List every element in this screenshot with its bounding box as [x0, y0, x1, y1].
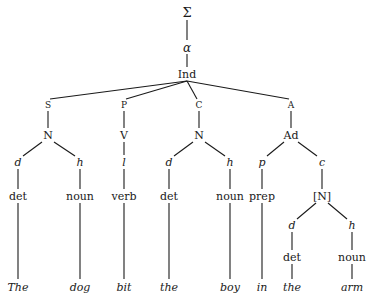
tree-node-p: P — [121, 101, 127, 110]
leaf-word-w1: The — [8, 282, 29, 293]
tree-edge — [23, 142, 42, 156]
tree-node-ad: Ad — [284, 130, 299, 141]
leaf-word-w7: the — [283, 282, 301, 293]
tree-node-p1: p — [258, 157, 265, 168]
tree-node-ind: Ind — [178, 69, 196, 80]
tree-node-noun3: noun — [338, 252, 366, 263]
tree-node-l1: l — [122, 157, 126, 168]
tree-node-h2: h — [226, 157, 233, 168]
tree-node-alpha: α — [183, 42, 191, 54]
tree-node-h3: h — [348, 220, 355, 231]
tree-node-noun1: noun — [66, 191, 94, 202]
tree-edge — [54, 142, 75, 156]
syntax-tree-diagram: ΣαIndSPCANVNAddhldhpcdetnounverbdetnounp… — [0, 0, 373, 298]
tree-node-c1: c — [319, 157, 325, 168]
tree-node-d1: d — [14, 157, 21, 168]
leaf-word-w2: dog — [70, 282, 91, 293]
tree-node-h1: h — [76, 157, 83, 168]
tree-node-n2: N — [194, 130, 204, 141]
tree-node-c: C — [196, 101, 203, 110]
leaf-word-w5: boy — [220, 282, 240, 293]
tree-edge — [174, 142, 193, 156]
tree-node-d3: d — [288, 220, 295, 231]
leaf-word-w4: the — [160, 282, 178, 293]
leaf-word-w6: in — [257, 282, 268, 293]
tree-edge — [50, 81, 187, 99]
tree-node-a: A — [288, 101, 295, 110]
tree-node-prep1: prep — [249, 191, 275, 202]
tree-node-sigma: Σ — [182, 6, 191, 19]
tree-node-det2: det — [160, 191, 178, 202]
tree-edge — [298, 142, 317, 156]
tree-edge — [187, 81, 289, 99]
leaf-word-w3: bit — [117, 282, 132, 293]
tree-node-nb: [N] — [313, 191, 331, 202]
tree-node-noun2: noun — [216, 191, 244, 202]
tree-edge — [267, 142, 284, 156]
tree-node-v: V — [120, 130, 128, 141]
tree-node-d2: d — [165, 157, 172, 168]
tree-node-det1: det — [9, 191, 27, 202]
tree-edge — [205, 142, 225, 156]
tree-node-n1: N — [43, 130, 53, 141]
tree-node-det3: det — [283, 252, 301, 263]
tree-edge — [297, 203, 316, 219]
tree-node-verb1: verb — [111, 191, 136, 202]
tree-node-s: S — [45, 101, 51, 110]
tree-edge — [126, 81, 187, 99]
tree-edge — [328, 203, 347, 219]
tree-edge — [187, 81, 197, 99]
leaf-word-w8: arm — [341, 282, 363, 293]
